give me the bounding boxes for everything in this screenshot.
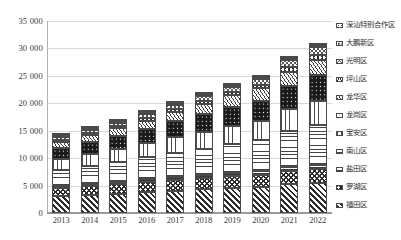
bar-segment[interactable] [252,88,270,100]
gridline [47,213,332,214]
legend-item[interactable]: 龙岗区 [336,106,401,124]
chart-legend: 深汕特别合作区大鹏新区光明区坪山区龙华区龙岗区宝安区南山区盐田区罗湖区福田区 [336,16,401,214]
bar-segment[interactable] [195,178,213,189]
bar-segment[interactable] [280,131,298,167]
bar-segment[interactable] [195,114,213,132]
bar-segment[interactable] [166,153,184,177]
bar-column[interactable] [138,110,156,213]
bar-segment[interactable] [280,86,298,110]
x-axis-tick-label: 2016 [133,215,161,225]
legend-item[interactable]: 罗湖区 [336,178,401,196]
bar-segment[interactable] [81,166,99,184]
bar-segment[interactable] [223,126,241,144]
bar-segment[interactable] [223,144,241,173]
bar-segment[interactable] [223,188,241,213]
bar-segment[interactable] [223,176,241,188]
bar-segment[interactable] [195,132,213,149]
bar-segment[interactable] [109,194,127,213]
bar-series-layer [47,21,332,213]
legend-item[interactable]: 龙华区 [336,88,401,106]
bar-segment[interactable] [309,169,327,183]
x-axis-tick-label: 2021 [275,215,303,225]
bar-segment[interactable] [309,75,327,101]
bar-segment[interactable] [280,109,298,131]
bar-column[interactable] [81,126,99,213]
legend-item[interactable]: 大鹏新区 [336,34,401,52]
legend-swatch-icon [336,185,343,190]
bar-segment[interactable] [280,171,298,184]
legend-swatch-icon [336,167,343,172]
bar-segment[interactable] [81,195,99,213]
bar-segment[interactable] [223,107,241,126]
bar-segment[interactable] [138,143,156,157]
bar-segment[interactable] [81,154,99,166]
bar-column[interactable] [195,92,213,213]
legend-swatch-icon [336,149,343,154]
bar-column[interactable] [252,75,270,213]
legend-item-label: 光明区 [346,57,367,64]
bar-segment[interactable] [138,192,156,213]
bar-segment[interactable] [81,186,99,195]
bar-segment[interactable] [223,95,241,106]
bar-segment[interactable] [109,136,127,149]
bar-segment[interactable] [109,149,127,162]
bar-segment[interactable] [195,189,213,213]
legend-item[interactable]: 南山区 [336,142,401,160]
x-axis-tick-label: 2022 [304,215,332,225]
bar-segment[interactable] [138,157,156,179]
legend-swatch-icon [336,131,343,136]
bar-segment[interactable] [252,140,270,171]
bar-column[interactable] [109,119,127,213]
bar-column[interactable] [166,101,184,213]
bar-segment[interactable] [109,128,127,136]
legend-swatch-icon [336,113,343,118]
bar-segment[interactable] [309,125,327,165]
bar-column[interactable] [309,43,327,213]
bar-segment[interactable] [138,182,156,192]
bar-segment[interactable] [195,104,213,114]
bar-column[interactable] [280,56,298,213]
legend-item[interactable]: 光明区 [336,52,401,70]
bar-segment[interactable] [309,183,327,213]
bar-column[interactable] [52,133,70,213]
bar-segment[interactable] [52,170,70,186]
bar-column[interactable] [223,83,241,213]
bar-segment[interactable] [280,184,298,213]
bar-segment[interactable] [280,72,298,86]
legend-item[interactable]: 福田区 [336,196,401,214]
legend-item[interactable]: 宝安区 [336,124,401,142]
legend-item[interactable]: 坪山区 [336,70,401,88]
legend-item-label: 福田区 [346,201,367,208]
bar-segment[interactable] [138,129,156,143]
bar-segment[interactable] [309,47,327,55]
bar-segment[interactable] [109,162,127,182]
bar-segment[interactable] [166,112,184,121]
bar-segment[interactable] [81,135,99,142]
bar-segment[interactable] [252,187,270,213]
bar-segment[interactable] [52,188,70,196]
bar-segment[interactable] [166,137,184,153]
bar-segment[interactable] [280,60,298,67]
bar-segment[interactable] [109,184,127,193]
bar-segment[interactable] [309,60,327,75]
legend-swatch-icon [336,59,343,64]
legend-swatch-icon [336,95,343,100]
bar-segment[interactable] [166,121,184,137]
bar-segment[interactable] [252,101,270,121]
legend-item-label: 盐田区 [346,165,367,172]
bar-segment[interactable] [52,148,70,158]
stacked-bar-chart: 05 00010 00015 00020 00025 00030 00035 0… [0,0,401,240]
bar-segment[interactable] [166,191,184,213]
bar-segment[interactable] [252,121,270,140]
bar-segment[interactable] [81,142,99,154]
bar-segment[interactable] [195,149,213,175]
bar-segment[interactable] [52,196,70,213]
bar-segment[interactable] [309,101,327,125]
bar-segment[interactable] [252,175,270,187]
bar-segment[interactable] [138,121,156,129]
legend-item[interactable]: 盐田区 [336,160,401,178]
bar-segment[interactable] [52,159,70,170]
legend-item[interactable]: 深汕特别合作区 [336,16,401,34]
legend-swatch-icon [336,77,343,82]
bar-segment[interactable] [166,180,184,190]
